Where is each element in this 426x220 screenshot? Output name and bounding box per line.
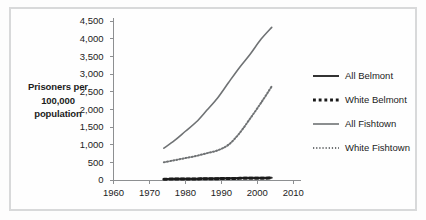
y-tick-label: 500 — [88, 157, 104, 168]
y-tick-label: 4,500 — [80, 15, 104, 26]
x-tick-label: 1960 — [103, 187, 124, 198]
x-tick-label: 1970 — [139, 187, 160, 198]
y-tick-label: 1,000 — [80, 139, 104, 150]
data-series-group — [164, 27, 272, 179]
legend-label: White Belmont — [345, 94, 407, 105]
series-line — [164, 178, 272, 179]
y-tick-label: 3,500 — [80, 51, 104, 62]
series-line — [164, 27, 272, 148]
x-tick-label: 1980 — [175, 187, 196, 198]
x-tick-label: 1990 — [211, 187, 232, 198]
chart-figure: Prisoners per 100,000 population 05001,0… — [0, 0, 426, 220]
x-tick-mark-group — [114, 180, 294, 184]
legend-label: All Belmont — [345, 70, 393, 81]
y-tick-label-group: 05001,0001,5002,0002,5003,0003,5004,0004… — [80, 15, 104, 185]
x-tick-label: 2000 — [247, 187, 268, 198]
legend-label: All Fishtown — [345, 118, 396, 129]
legend-label: White Fishtown — [345, 142, 410, 153]
y-tick-label: 2,500 — [80, 86, 104, 97]
y-tick-label: 3,000 — [80, 68, 104, 79]
x-tick-label-group: 196019701980199020002010 — [103, 187, 304, 198]
y-tick-label: 2,000 — [80, 104, 104, 115]
y-tick-label: 4,000 — [80, 33, 104, 44]
y-tick-mark-group — [110, 21, 114, 180]
chart-plot: 05001,0001,5002,0002,5003,0003,5004,0004… — [0, 0, 426, 220]
y-tick-label: 1,500 — [80, 121, 104, 132]
chart-legend: All BelmontWhite BelmontAll FishtownWhit… — [313, 70, 410, 153]
x-tick-label: 2010 — [283, 187, 304, 198]
y-tick-label: 0 — [98, 174, 103, 185]
